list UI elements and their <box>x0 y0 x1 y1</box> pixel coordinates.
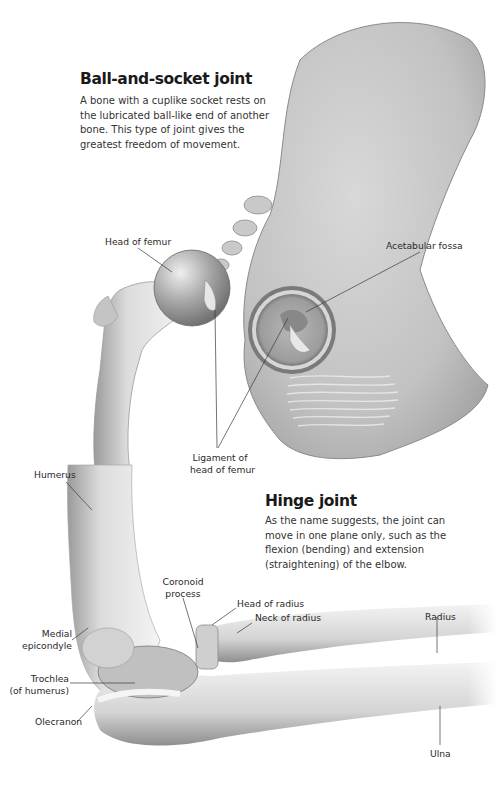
label-humerus: Humerus <box>34 469 76 481</box>
hinge-description: As the name suggests, the joint can move… <box>265 514 455 572</box>
ball-socket-title: Ball-and-socket joint <box>80 70 252 88</box>
label-medial-epicondyle: Medial epicondyle <box>10 628 72 652</box>
label-radius: Radius <box>425 611 456 623</box>
label-neck-of-radius: Neck of radius <box>255 612 321 624</box>
ball-socket-description: A bone with a cuplike socket rests on th… <box>80 94 280 152</box>
femur-illustration <box>94 250 230 470</box>
label-trochlea: Trochlea (of humerus) <box>5 673 69 697</box>
label-head-of-femur: Head of femur <box>105 236 171 248</box>
label-coronoid-process: Coronoid process <box>157 576 209 600</box>
label-ulna: Ulna <box>430 748 451 760</box>
hinge-title: Hinge joint <box>265 492 357 510</box>
label-olecranon: Olecranon <box>35 716 82 728</box>
label-head-of-radius: Head of radius <box>237 598 304 610</box>
label-acetabular-fossa: Acetabular fossa <box>386 240 463 252</box>
label-ligament-of-head-of-femur: Ligament of head of femur <box>190 452 250 476</box>
